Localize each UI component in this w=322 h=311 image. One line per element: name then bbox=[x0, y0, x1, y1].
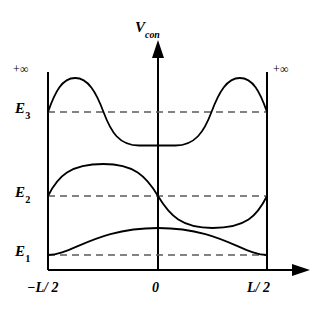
x-tick-label-center-prefix: 0 bbox=[152, 280, 159, 295]
y-axis-label-subscript: con bbox=[145, 29, 160, 40]
energy-level-index-3: 3 bbox=[25, 110, 30, 121]
y-axis-label-main: V bbox=[135, 19, 145, 35]
energy-level-label-3: E3 bbox=[15, 101, 30, 119]
x-tick-label-center: 0 bbox=[152, 281, 159, 295]
x-tick-label-right-suffix: / 2 bbox=[256, 280, 270, 295]
quantum-well-figure: Vcon +∞ +∞ E3 E2 E1 −L/ 2 0 L/ 2 bbox=[0, 0, 322, 311]
energy-level-symbol-2: E bbox=[15, 184, 25, 200]
x-tick-label-right-prefix: L bbox=[247, 280, 256, 295]
y-axis-arrowhead bbox=[152, 40, 164, 58]
energy-level-symbol-1: E bbox=[15, 243, 25, 259]
left-barrier-infinity-label: +∞ bbox=[13, 63, 29, 75]
figure-canvas bbox=[0, 0, 322, 311]
y-axis-label: Vcon bbox=[135, 20, 160, 38]
x-tick-label-left-suffix: / 2 bbox=[44, 280, 58, 295]
x-axis-arrowhead bbox=[292, 264, 310, 276]
right-barrier-infinity-label: +∞ bbox=[273, 63, 289, 75]
x-tick-label-left-prefix: −L bbox=[27, 280, 44, 295]
energy-level-symbol-3: E bbox=[15, 100, 25, 116]
energy-level-index-1: 1 bbox=[25, 253, 30, 264]
energy-level-index-2: 2 bbox=[25, 194, 30, 205]
energy-level-label-1: E1 bbox=[15, 244, 30, 262]
x-tick-label-right: L/ 2 bbox=[247, 281, 270, 295]
energy-level-label-2: E2 bbox=[15, 185, 30, 203]
x-tick-label-left: −L/ 2 bbox=[27, 281, 58, 295]
